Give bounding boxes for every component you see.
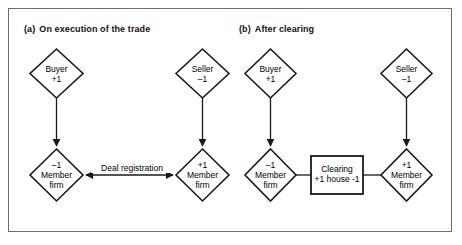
panel-b-node-buyer: [245, 49, 296, 98]
panel-b-node-clearing-house: [311, 156, 363, 194]
panel-a-node-buyer-member-firm: [30, 149, 83, 201]
panel-b-node-buyer-member-firm: [245, 149, 296, 201]
panel-a-node-buyer: [30, 49, 83, 98]
diagram-artwork: [0, 0, 462, 245]
panel-a-node-seller-member-firm: [176, 149, 229, 201]
panel-a-node-seller: [176, 49, 229, 98]
clearing-flow-diagram: (a)On execution of the trade (b)After cl…: [0, 0, 462, 245]
panel-b-node-seller: [381, 49, 432, 98]
panel-a-edge-label-deal-registration: Deal registration: [91, 163, 173, 173]
panel-b-node-seller-member-firm: [381, 149, 432, 201]
